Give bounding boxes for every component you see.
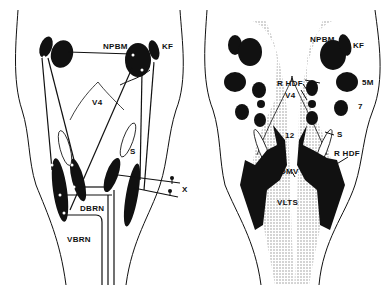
label-vbrn: VBRN: [67, 236, 91, 244]
label-vlts: VLTS: [277, 199, 298, 207]
label-r-hdf-top: R HDF: [277, 80, 303, 88]
label-kf: KF: [162, 43, 173, 51]
label-v4: V4: [92, 99, 102, 107]
left-diagram-panel: NPBM KF V4 S X DBRN VBRN: [0, 0, 195, 293]
label-npbm: NPBM: [103, 43, 128, 51]
label-x: X: [182, 186, 188, 194]
label-npbm: NPBM: [310, 36, 335, 44]
label-12: 12: [285, 132, 295, 140]
label-kf: KF: [353, 42, 364, 50]
label-v4: V4: [285, 92, 295, 100]
label-s: S: [130, 148, 136, 156]
label-dmv: DMV: [280, 168, 299, 176]
label-s: S: [337, 131, 343, 139]
right-diagram-panel: NPBM KF 5M 7 R HDF V4 12 S R HDF DMV VLT…: [195, 0, 390, 293]
label-7: 7: [358, 103, 363, 111]
label-r-hdf-bottom: R HDF: [334, 150, 360, 158]
label-5m: 5M: [362, 79, 374, 87]
label-dbrn: DBRN: [80, 205, 104, 213]
